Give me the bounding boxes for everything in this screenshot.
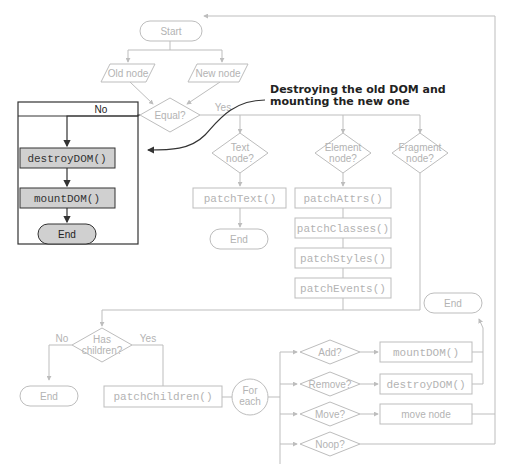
end-children: End bbox=[20, 386, 78, 406]
svg-text:Add?: Add? bbox=[318, 347, 342, 358]
destroy-dom-child-box: destroyDOM() bbox=[380, 374, 472, 394]
svg-text:move node: move node bbox=[401, 409, 451, 420]
svg-text:End: End bbox=[444, 298, 462, 309]
svg-text:Element: Element bbox=[325, 142, 362, 153]
svg-text:Move?: Move? bbox=[315, 409, 345, 420]
flowchart-diagram: Start Old node New node Equal? Yes No de… bbox=[0, 0, 509, 475]
text-node-decision: Text node? bbox=[212, 133, 268, 173]
svg-text:End: End bbox=[40, 391, 58, 402]
svg-text:Text: Text bbox=[231, 142, 250, 153]
patch-classes-box: patchClasses() bbox=[295, 218, 391, 238]
svg-text:Yes: Yes bbox=[140, 333, 156, 344]
svg-text:mountDOM(): mountDOM() bbox=[393, 347, 459, 359]
remove-decision: Remove? bbox=[300, 372, 360, 396]
for-each-loop: For each bbox=[232, 379, 268, 415]
svg-text:node?: node? bbox=[329, 153, 357, 164]
patch-attrs-box: patchAttrs() bbox=[295, 188, 391, 208]
svg-text:node?: node? bbox=[226, 153, 254, 164]
svg-text:No: No bbox=[56, 333, 69, 344]
svg-text:each: each bbox=[239, 396, 261, 407]
svg-text:End: End bbox=[230, 234, 248, 245]
svg-text:Equal?: Equal? bbox=[154, 110, 186, 121]
svg-text:Noop?: Noop? bbox=[315, 439, 345, 450]
svg-text:mountDOM(): mountDOM() bbox=[34, 193, 100, 205]
svg-text:patchClasses(): patchClasses() bbox=[297, 223, 389, 235]
svg-text:No: No bbox=[95, 104, 108, 115]
svg-text:Old node: Old node bbox=[108, 68, 149, 79]
element-node-decision: Element node? bbox=[315, 133, 371, 173]
svg-text:For: For bbox=[243, 385, 259, 396]
svg-text:node?: node? bbox=[406, 153, 434, 164]
svg-text:Has: Has bbox=[93, 334, 111, 345]
move-node-box: move node bbox=[380, 404, 472, 424]
svg-text:Start: Start bbox=[160, 26, 181, 37]
fragment-node-decision: Fragment node? bbox=[392, 133, 448, 173]
svg-text:children?: children? bbox=[82, 345, 123, 356]
annotation-text: Destroying the old DOM and mounting the … bbox=[270, 83, 446, 108]
svg-text:destroyDOM(): destroyDOM() bbox=[386, 379, 465, 391]
svg-text:patchEvents(): patchEvents() bbox=[300, 283, 386, 295]
svg-text:patchStyles(): patchStyles() bbox=[300, 253, 386, 265]
patch-text-box: patchText() bbox=[193, 188, 286, 208]
new-node-input: New node bbox=[188, 64, 248, 82]
start-node: Start bbox=[140, 21, 202, 41]
patch-children-box: patchChildren() bbox=[104, 386, 222, 407]
svg-text:patchChildren(): patchChildren() bbox=[113, 391, 212, 403]
svg-text:Remove?: Remove? bbox=[309, 379, 352, 390]
svg-text:destroyDOM(): destroyDOM() bbox=[27, 153, 106, 165]
svg-text:Fragment: Fragment bbox=[399, 142, 442, 153]
move-decision: Move? bbox=[300, 402, 360, 426]
mount-dom-child-box: mountDOM() bbox=[380, 342, 472, 362]
end-right: End bbox=[424, 293, 482, 313]
svg-text:New node: New node bbox=[195, 68, 240, 79]
old-node-input: Old node bbox=[101, 64, 155, 82]
svg-text:patchAttrs(): patchAttrs() bbox=[303, 193, 382, 205]
end-text: End bbox=[210, 229, 268, 249]
replace-dom-highlight: No destroyDOM() mountDOM() End bbox=[18, 102, 140, 244]
svg-text:mounting the new one: mounting the new one bbox=[270, 95, 410, 108]
svg-text:End: End bbox=[58, 229, 76, 240]
patch-events-box: patchEvents() bbox=[295, 278, 391, 298]
patch-styles-box: patchStyles() bbox=[295, 248, 391, 268]
svg-text:patchText(): patchText() bbox=[204, 193, 277, 205]
noop-decision: Noop? bbox=[300, 432, 360, 456]
add-decision: Add? bbox=[300, 340, 360, 364]
